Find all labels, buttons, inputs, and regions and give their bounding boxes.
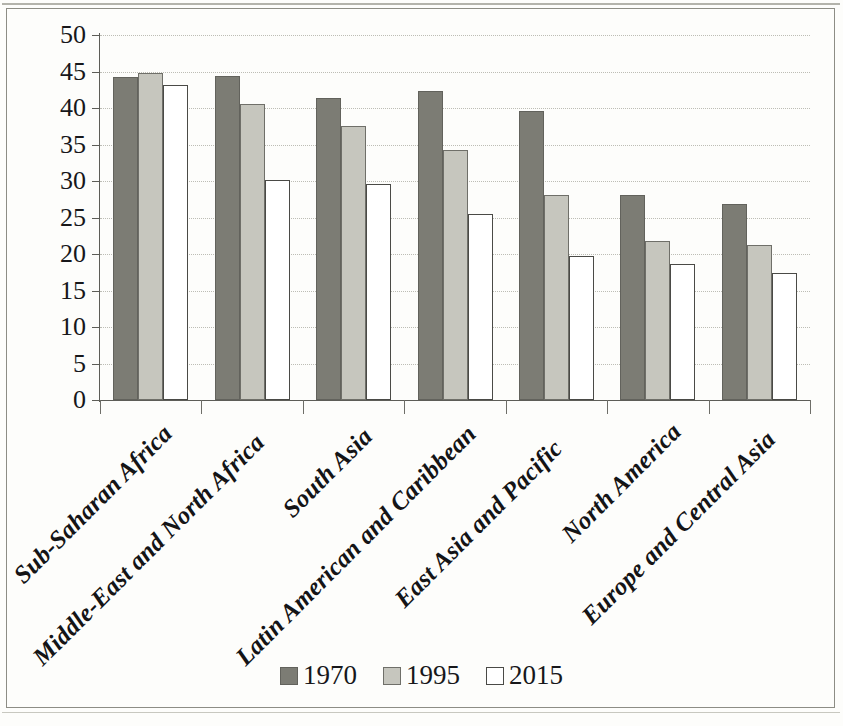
- y-axis-tick-label: 30: [30, 168, 86, 194]
- legend-label: 2015: [509, 662, 563, 689]
- bar: [418, 91, 443, 400]
- bar: [670, 264, 695, 400]
- bar: [645, 241, 670, 400]
- bar: [468, 214, 493, 400]
- legend-swatch-icon: [383, 667, 401, 685]
- bar: [215, 76, 240, 400]
- y-axis-tick-label: 35: [30, 132, 86, 158]
- gridline: [100, 72, 810, 73]
- legend-swatch-icon: [486, 667, 504, 685]
- chart-legend: 197019952015: [0, 662, 843, 689]
- y-axis-tick-label: 40: [30, 95, 86, 121]
- y-axis-tick-label: 20: [30, 241, 86, 267]
- legend-entry: 1995: [383, 662, 460, 689]
- x-axis-category-label: East Asia and Pacific: [390, 435, 567, 612]
- bar: [519, 111, 544, 400]
- bar: [722, 204, 747, 400]
- bar: [341, 126, 366, 400]
- bar: [443, 150, 468, 400]
- y-axis-tick-label: 25: [30, 205, 86, 231]
- bar: [163, 85, 188, 400]
- legend-label: 1970: [303, 662, 357, 689]
- bar: [240, 104, 265, 400]
- legend-label: 1995: [406, 662, 460, 689]
- bar: [620, 195, 645, 400]
- gridline: [100, 108, 810, 109]
- bar-chart-figure: 50454035302520151050 Sub-Saharan AfricaM…: [0, 0, 843, 726]
- x-axis-category-labels: Sub-Saharan AfricaMiddle-East and North …: [0, 400, 843, 650]
- x-axis-category-label: South Asia: [278, 423, 377, 522]
- bar: [544, 195, 569, 400]
- legend-swatch-icon: [280, 667, 298, 685]
- plot-area: [100, 35, 810, 400]
- y-axis-tick-label: 15: [30, 278, 86, 304]
- legend-entry: 1970: [280, 662, 357, 689]
- x-axis-category-label: Europe and Central Asia: [577, 426, 779, 628]
- legend-entry: 2015: [486, 662, 563, 689]
- gridline: [100, 35, 810, 36]
- bar: [113, 77, 138, 400]
- bar: [138, 73, 163, 400]
- y-axis-tick-label: 5: [30, 351, 86, 377]
- bar: [265, 180, 290, 400]
- bar: [569, 256, 594, 400]
- bar: [366, 184, 391, 400]
- bar: [772, 273, 797, 400]
- gridline: [100, 145, 810, 146]
- bar: [747, 245, 772, 400]
- y-axis-tick-label: 10: [30, 314, 86, 340]
- y-axis-tick-label: 45: [30, 59, 86, 85]
- bar: [316, 98, 341, 400]
- y-axis-tick-label: 50: [30, 22, 86, 48]
